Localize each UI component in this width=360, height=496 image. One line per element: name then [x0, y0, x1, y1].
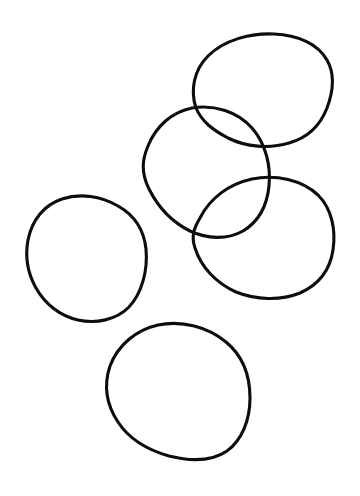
figure-background — [0, 0, 360, 496]
hand-drawn-circles-svg — [0, 0, 360, 496]
figure-canvas: Five hand-drawn closed curves Five rough… — [0, 0, 360, 496]
